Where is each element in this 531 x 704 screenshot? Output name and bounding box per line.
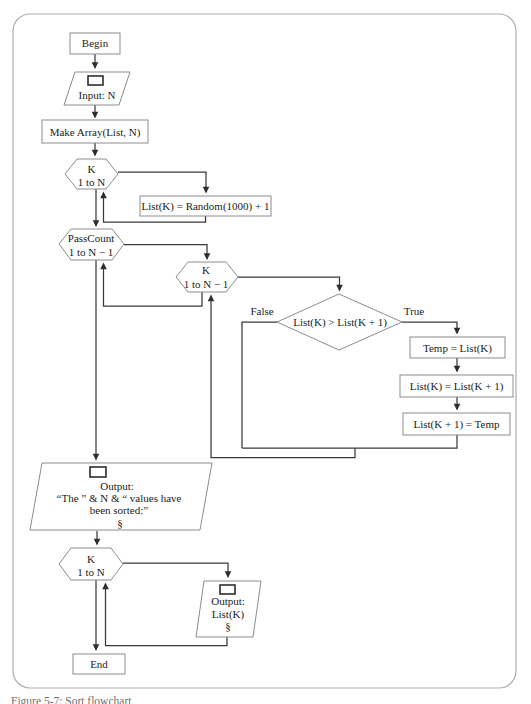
flowchart-canvas: Begin Input: N Make Array(List, N) K 1 t… [0, 0, 531, 704]
edge-loopfill-assign [118, 172, 206, 192]
begin-label: Begin [82, 37, 109, 49]
edge-loopcompare-decision [238, 277, 340, 290]
flowchart-figure: Begin Input: N Make Array(List, N) K 1 t… [0, 0, 531, 704]
input-label: Input: N [79, 89, 116, 101]
edge-true-branch [402, 322, 457, 333]
edge-loopprint-outputitem [123, 563, 228, 577]
output-sorted-line2: “The ” & N & “ values have [57, 492, 182, 504]
flow-texts: Begin Input: N Make Array(List, N) K 1 t… [50, 37, 504, 670]
output-item-line3: § [225, 620, 231, 632]
loop-compare-var: K [202, 264, 210, 276]
output-item-line1: Output: [211, 595, 245, 607]
swap-restore-label: List(K + 1) = Temp [414, 418, 500, 431]
true-branch-label: True [404, 305, 424, 317]
loop-print-var: K [87, 553, 95, 565]
loop-compare-range: 1 to N − 1 [184, 278, 229, 290]
output-sorted-line1: Output: [100, 480, 134, 492]
loop-fill-range: 1 to N [78, 176, 106, 188]
edge-false-branch [242, 322, 277, 448]
output-sorted-line3: been sorted:” [90, 504, 148, 516]
edge-looppass-loopcompare [124, 245, 207, 259]
decision-label: List(K) > List(K + 1) [293, 316, 387, 329]
swap-temp-label: Temp = List(K) [423, 342, 492, 355]
false-branch-label: False [250, 305, 273, 317]
output-sorted-line4: § [117, 517, 123, 529]
display-icon [88, 76, 103, 85]
swap-assign-label: List(K) = List(K + 1) [410, 380, 504, 393]
loop-pass-range: 1 to N − 1 [69, 246, 114, 258]
loop-pass-var: PassCount [68, 232, 114, 244]
loop-print-range: 1 to N [77, 566, 105, 578]
display-icon [90, 467, 106, 477]
flow-edges [95, 54, 457, 650]
edge-swap-merge [242, 435, 457, 448]
loop-fill-var: K [88, 163, 96, 175]
figure-caption: Figure 5-7: Sort flowchart [11, 694, 431, 704]
end-label: End [90, 658, 108, 670]
make-array-label: Make Array(List, N) [50, 126, 141, 139]
display-icon [220, 585, 235, 594]
random-assign-label: List(K) = Random(1000) + 1 [142, 200, 270, 213]
